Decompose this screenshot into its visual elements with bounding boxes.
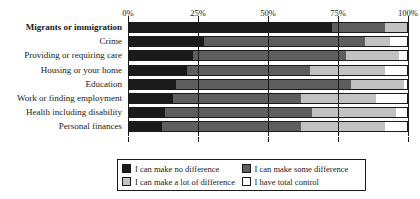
x-axis-tick-mark-bottom	[198, 137, 199, 142]
x-axis-tick-mark-bottom	[408, 137, 409, 142]
bar-segment	[351, 80, 404, 89]
legend-item[interactable]: I can make some difference	[242, 164, 362, 174]
x-axis-tick-label: 0%	[122, 8, 133, 18]
gridline	[338, 20, 339, 136]
plot-area	[128, 20, 408, 136]
bar-segment	[129, 37, 204, 46]
bar-segment	[404, 80, 407, 89]
bar-segment	[396, 108, 407, 117]
legend-swatch	[242, 164, 251, 173]
category-label: Work or finding employment	[17, 93, 122, 104]
legend-swatch	[122, 164, 131, 173]
category-label: Health including disability	[26, 107, 122, 118]
bar-segment	[129, 80, 176, 89]
category-label: Personal finances	[59, 121, 122, 132]
chart-legend: I can make no differenceI can make some …	[117, 159, 366, 191]
category-label: Education	[86, 79, 123, 90]
legend-label: I can make no difference	[135, 164, 219, 174]
category-label: Providing or requiring care	[24, 50, 122, 61]
x-axis-tick-label: 100%	[398, 8, 418, 18]
bar-segment	[129, 108, 165, 117]
legend-swatch	[122, 177, 131, 186]
legend-item[interactable]: I can make a lot of difference	[122, 177, 242, 187]
bar-segment	[162, 122, 301, 131]
legend-item[interactable]: I have total control	[242, 177, 362, 187]
gridline	[198, 20, 199, 136]
bar-segment	[346, 51, 399, 60]
bar-segment	[165, 108, 312, 117]
x-axis-tick-label: 75%	[330, 8, 346, 18]
bar-segment	[390, 37, 407, 46]
gridline	[408, 20, 409, 136]
bar-segment	[310, 66, 385, 75]
x-axis-top: 0%25%50%75%100%	[128, 8, 408, 20]
legend-label: I can make some difference	[255, 164, 349, 174]
category-label-column: Migrants or immigrationCrimeProviding or…	[0, 20, 128, 136]
legend-label: I have total control	[255, 177, 319, 187]
legend-swatch	[242, 177, 251, 186]
bar-segment	[385, 66, 407, 75]
bar-segment	[193, 51, 346, 60]
x-axis-tick-mark-bottom	[268, 137, 269, 142]
legend-label: I can make a lot of difference	[135, 177, 235, 187]
x-axis-tick-label: 25%	[190, 8, 206, 18]
bar-segment	[187, 66, 309, 75]
bar-segment	[129, 51, 193, 60]
bar-segment	[129, 66, 187, 75]
bar-segment	[129, 122, 162, 131]
bar-segment	[176, 80, 351, 89]
category-label: Housing or your home	[41, 65, 122, 76]
gridline	[128, 20, 129, 136]
bar-segment	[173, 94, 301, 103]
bar-segment	[385, 23, 407, 32]
category-label: Crime	[100, 36, 123, 47]
bar-segment	[365, 37, 390, 46]
x-axis-tick-mark-bottom	[338, 137, 339, 142]
bar-segment	[399, 51, 407, 60]
bar-segment	[204, 37, 365, 46]
x-axis-tick-mark-bottom	[128, 137, 129, 142]
stacked-bar-chart: 0%25%50%75%100% Migrants or immigrationC…	[0, 0, 420, 199]
bar-segment	[376, 94, 407, 103]
bar-segment	[129, 23, 332, 32]
gridline	[268, 20, 269, 136]
bar-segment	[312, 108, 395, 117]
bar-segment	[332, 23, 385, 32]
bar-segment	[301, 122, 384, 131]
bar-segment	[129, 94, 173, 103]
bar-segment	[385, 122, 407, 131]
category-label: Migrants or immigration	[26, 22, 122, 33]
x-axis-tick-label: 50%	[260, 8, 276, 18]
legend-item[interactable]: I can make no difference	[122, 164, 242, 174]
